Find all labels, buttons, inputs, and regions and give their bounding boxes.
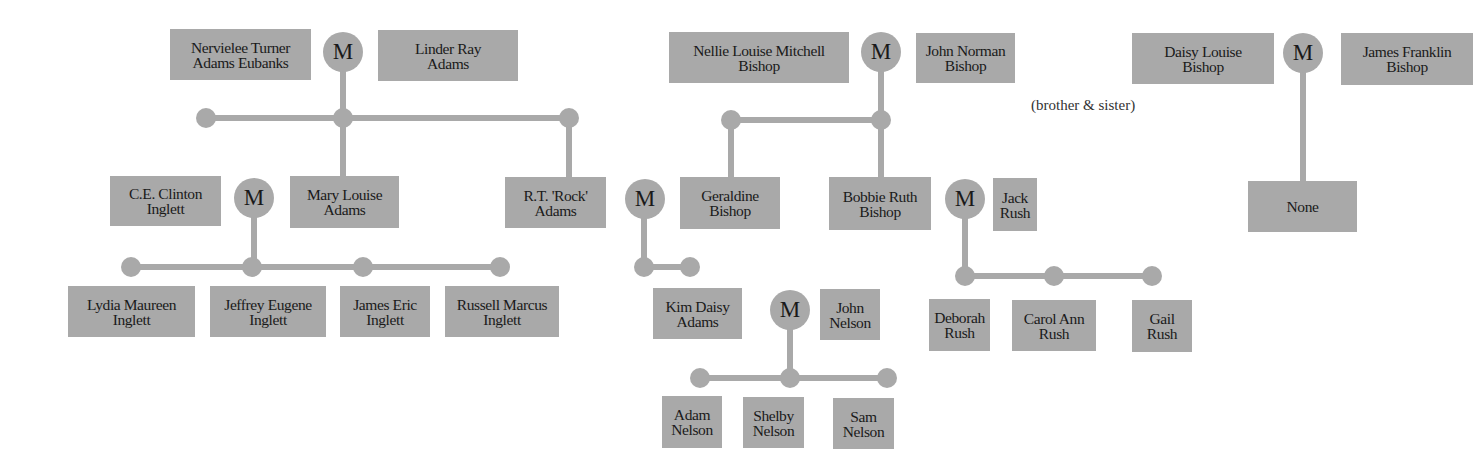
person-box: Sam Nelson xyxy=(833,398,894,449)
person-box: C.E. Clinton Inglett xyxy=(110,176,221,226)
marriage-label: M xyxy=(244,185,264,211)
person-box: Linder Ray Adams xyxy=(378,30,518,81)
person-name: Russell Marcus Inglett xyxy=(457,297,547,327)
person-name: Deborah Rush xyxy=(934,310,985,340)
person-box: Jeffrey Eugene Inglett xyxy=(210,286,326,337)
person-box: Geraldine Bishop xyxy=(680,177,780,229)
person-box: Jack Rush xyxy=(993,178,1037,231)
person-box: Russell Marcus Inglett xyxy=(445,286,559,337)
person-name: Kim Daisy Adams xyxy=(666,299,730,329)
person-name: Daisy Louise Bishop xyxy=(1164,44,1241,74)
person-name: None xyxy=(1287,199,1319,214)
marriage-label: M xyxy=(955,186,975,212)
person-name: Sam Nelson xyxy=(843,409,885,439)
person-name: Bobbie Ruth Bishop xyxy=(843,189,917,219)
person-box: James Eric Inglett xyxy=(340,286,430,337)
marriage-label: M xyxy=(333,39,353,65)
person-box: Carol Ann Rush xyxy=(1012,300,1096,351)
person-name: Lydia Maureen Inglett xyxy=(87,297,176,327)
person-box: John Nelson xyxy=(820,289,880,340)
marriage-node: M xyxy=(770,290,810,330)
person-box: James Franklin Bishop xyxy=(1341,33,1473,85)
person-box: Mary Louise Adams xyxy=(290,176,399,228)
person-box: Lydia Maureen Inglett xyxy=(68,286,195,337)
person-name: R.T. 'Rock' Adams xyxy=(523,188,587,218)
person-name: Jeffrey Eugene Inglett xyxy=(224,297,312,327)
person-box: Gail Rush xyxy=(1132,300,1192,352)
marriage-node: M xyxy=(323,32,363,72)
person-name: C.E. Clinton Inglett xyxy=(129,186,202,216)
person-name: Nervielee Turner Adams Eubanks xyxy=(191,40,290,70)
person-name: Carol Ann Rush xyxy=(1024,311,1085,341)
person-box: Nellie Louise Mitchell Bishop xyxy=(669,32,849,83)
person-box: None xyxy=(1248,181,1357,232)
person-name: John Norman Bishop xyxy=(926,43,1006,73)
person-box: Deborah Rush xyxy=(929,299,990,351)
person-name: Nellie Louise Mitchell Bishop xyxy=(693,43,825,73)
person-name: James Franklin Bishop xyxy=(1363,44,1452,74)
person-name: Shelby Nelson xyxy=(753,408,795,438)
person-box: Kim Daisy Adams xyxy=(653,288,742,339)
person-name: Geraldine Bishop xyxy=(701,188,759,218)
person-box: John Norman Bishop xyxy=(916,33,1015,83)
person-name: James Eric Inglett xyxy=(353,297,417,327)
marriage-node: M xyxy=(234,178,274,218)
person-box: Bobbie Ruth Bishop xyxy=(829,177,931,230)
marriage-label: M xyxy=(1293,40,1313,66)
marriage-node: M xyxy=(1283,33,1323,73)
person-box: R.T. 'Rock' Adams xyxy=(505,177,606,228)
marriage-node: M xyxy=(625,179,665,219)
person-box: Daisy Louise Bishop xyxy=(1132,33,1274,84)
person-name: Linder Ray Adams xyxy=(415,41,481,71)
person-name: Mary Louise Adams xyxy=(307,187,382,217)
marriage-node: M xyxy=(861,32,901,72)
sibling-annotation: (brother & sister) xyxy=(1031,97,1135,114)
person-box: Adam Nelson xyxy=(662,396,722,448)
marriage-label: M xyxy=(635,186,655,212)
marriage-label: M xyxy=(871,39,891,65)
person-box: Shelby Nelson xyxy=(743,397,804,448)
marriage-label: M xyxy=(780,297,800,323)
person-name: Jack Rush xyxy=(1000,190,1030,220)
person-name: John Nelson xyxy=(829,300,871,330)
family-tree-diagram: Nervielee Turner Adams Eubanks M Linder … xyxy=(0,0,1473,469)
person-name: Gail Rush xyxy=(1147,311,1177,341)
person-box: Nervielee Turner Adams Eubanks xyxy=(170,29,311,80)
marriage-node: M xyxy=(945,179,985,219)
person-name: Adam Nelson xyxy=(671,407,713,437)
